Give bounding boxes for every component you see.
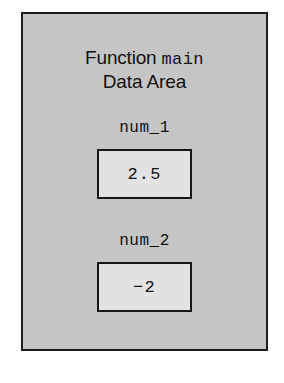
diagram-canvas: Function main Data Area num_1 2.5 num_2 … [0,0,284,383]
variable-value-num-2: −2 [133,278,156,297]
panel-title-line-1: Function main [23,47,266,70]
variable-entry-num-2: num_2 −2 [23,231,266,312]
panel-title-prefix: Function [85,47,161,68]
variable-entry-num-1: num_1 2.5 [23,118,266,199]
variable-value-box-num-1: 2.5 [97,149,192,199]
panel-title-line-2: Data Area [23,71,266,93]
panel-title: Function main Data Area [23,47,266,93]
variable-label-num-1: num_1 [23,118,266,139]
function-data-area-panel: Function main Data Area num_1 2.5 num_2 … [21,12,268,351]
variable-value-box-num-2: −2 [97,262,192,312]
panel-title-function-name: main [161,50,203,69]
variable-value-num-1: 2.5 [127,165,161,184]
variable-label-num-2: num_2 [23,231,266,252]
